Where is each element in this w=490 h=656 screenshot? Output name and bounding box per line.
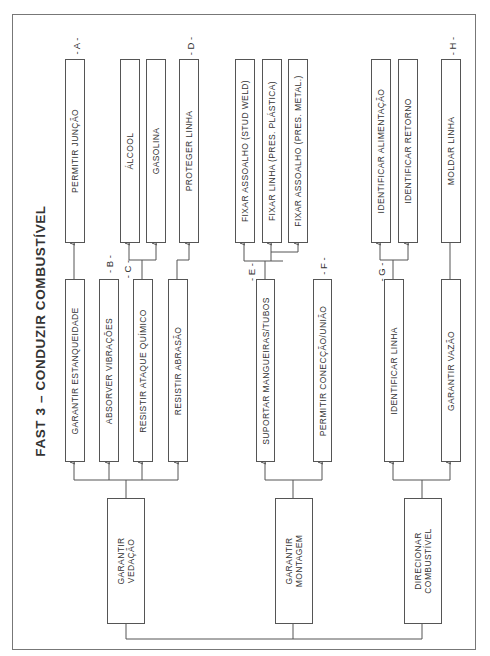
root-direcionar-combustivel: DIRECIONARCOMBUSTÍVEL	[404, 498, 442, 624]
tag-h: - H -	[447, 37, 458, 55]
root-garantir-vedacao: GARANTIRVEDAÇÃO	[107, 498, 145, 624]
tag-d: - D -	[185, 37, 196, 55]
tag-b: - B -	[104, 255, 115, 273]
fn-identificar-linha: IDENTIFICAR LINHA	[384, 279, 404, 462]
root-label: GARANTIRMONTAGEM	[284, 535, 304, 588]
fn-moldar-linha: MOLDAR LINHA	[441, 59, 461, 243]
root-garantir-montagem: GARANTIRMONTAGEM	[275, 498, 313, 624]
fn-absorver-vibracoes: ABSORVER VIBRAÇÕES	[99, 279, 119, 462]
tag-e: - E -	[246, 263, 257, 281]
tag-a: - A -	[71, 38, 82, 55]
fn-fixar-assoalho-metal: FIXAR ASSOALHO (PRES. METAL.)	[288, 59, 308, 243]
fn-gasolina: GASOLINA	[146, 59, 166, 243]
fn-permitir-coneccao: PERMITIR CONECÇÃO/UNIÃO	[313, 279, 332, 462]
fn-fixar-assoalho-stud: FIXAR ASSOALHO (STUD WELD)	[235, 59, 255, 243]
fn-resistir-abrasao: RESISTIR ABRASÃO	[168, 279, 188, 462]
fn-suportar-mangueiras: SUPORTAR MANGUEIRAS/TUBOS	[256, 279, 275, 462]
fn-garantir-estanqueidade: GARANTIR ESTANQUEIDADE	[65, 279, 85, 462]
root-label: GARANTIRVEDAÇÃO	[116, 537, 136, 584]
fn-proteger-linha: PROTEGER LINHA	[179, 59, 199, 243]
fn-identificar-retorno: IDENTIFICAR RETORNO	[398, 59, 418, 243]
fn-fixar-linha-plastica: FIXAR LINHA (PRES. PLÁSTICA)	[262, 59, 282, 243]
tag-c: - C -	[122, 260, 133, 278]
fn-permitir-juncao: PERMITIR JUNÇÃO	[65, 59, 85, 243]
fn-alcool: ÁLCOOL	[120, 59, 140, 243]
fn-identificar-alimentacao: IDENTIFICAR ALIMENTAÇÃO	[371, 59, 391, 243]
fn-resistir-ataque-quimico: RESISTIR ATAQUE QUÍMICO	[133, 279, 153, 462]
root-label: DIRECIONARCOMBUSTÍVEL	[413, 528, 433, 593]
tag-f: - F -	[318, 257, 329, 274]
tag-g: - G -	[376, 263, 387, 282]
diagram-title: FAST 3 – CONDUZIR COMBUSTÍVEL	[33, 205, 48, 456]
fn-garantir-vazao: GARANTIR VAZÃO	[441, 279, 461, 462]
